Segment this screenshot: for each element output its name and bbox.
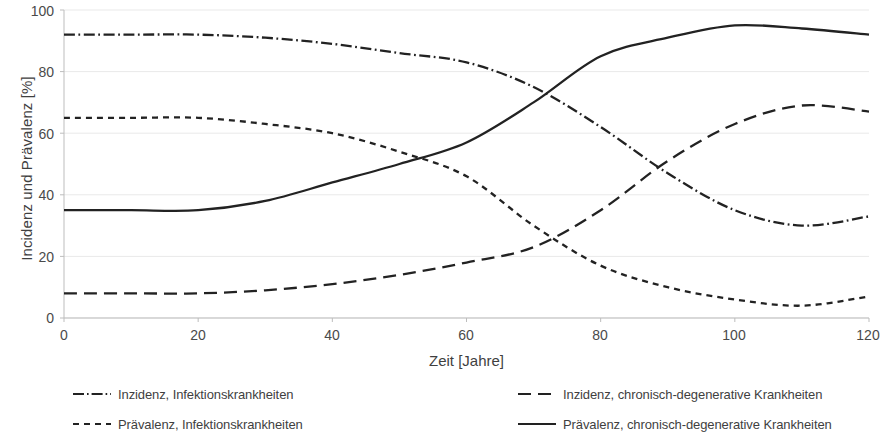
- legend-key-long-dash-icon: [517, 387, 557, 401]
- x-tick-label-0: 0: [41, 327, 87, 343]
- axis-lines: [64, 10, 869, 318]
- x-tick-label-40: 40: [309, 327, 355, 343]
- x-tick-label-100: 100: [711, 327, 757, 343]
- x-tick-label-60: 60: [443, 327, 489, 343]
- y-axis-title: Incidenz und Prävalenz [%]: [18, 39, 35, 299]
- legend-key-dash-dot-icon: [72, 387, 112, 401]
- x-tick-label-20: 20: [175, 327, 221, 343]
- chart-plot-area: [0, 0, 891, 439]
- y-tick-marks: [60, 10, 64, 318]
- legend-item-praevalenz-chronisch-degenerative[interactable]: Prävalenz, chronisch-degenerative Krankh…: [517, 414, 832, 434]
- legend-label-0: Inzidenz, Infektionskrankheiten: [118, 387, 293, 402]
- x-axis-title: Zeit [Jahre]: [64, 352, 869, 369]
- series-lines: [64, 25, 869, 306]
- chart-figure: 100 80 60 40 20 0 0 20 40 60 80 100 120 …: [0, 0, 891, 439]
- y-tick-label-100: 100: [14, 3, 54, 19]
- legend-item-inzidenz-chronisch-degenerative[interactable]: Inzidenz, chronisch-degenerative Krankhe…: [517, 384, 822, 404]
- legend-key-solid-icon: [517, 417, 557, 431]
- legend-label-3: Prävalenz, chronisch-degenerative Krankh…: [563, 417, 832, 432]
- legend-label-2: Inzidenz, chronisch-degenerative Krankhe…: [563, 387, 822, 402]
- chart-legend: Inzidenz, Infektionskrankheiten Prävalen…: [0, 382, 891, 439]
- series-line-0: [64, 34, 869, 225]
- legend-label-1: Prävalenz, Infektionskrankheiten: [118, 417, 303, 432]
- legend-key-short-dash-icon: [72, 417, 112, 431]
- y-tick-label-0: 0: [14, 310, 54, 326]
- legend-item-inzidenz-infektionskrankheiten[interactable]: Inzidenz, Infektionskrankheiten: [72, 384, 293, 404]
- x-tick-label-120: 120: [845, 327, 891, 343]
- x-tick-marks: [64, 318, 869, 322]
- x-tick-label-80: 80: [577, 327, 623, 343]
- gridlines: [64, 10, 869, 318]
- legend-item-praevalenz-infektionskrankheiten[interactable]: Prävalenz, Infektionskrankheiten: [72, 414, 303, 434]
